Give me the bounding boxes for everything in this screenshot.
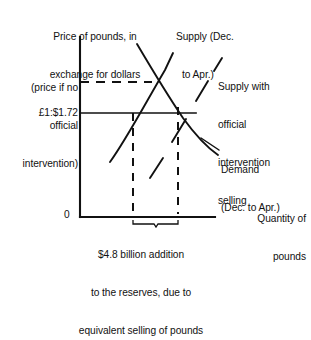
supply-label-line1: Supply (Dec. bbox=[176, 31, 256, 44]
y-axis-title-line1: Price of pounds, in bbox=[22, 31, 168, 44]
no-intervention-line2: official bbox=[2, 120, 78, 133]
no-intervention-line3: intervention) bbox=[2, 158, 78, 171]
caption-line1: $4.8 billion addition bbox=[28, 249, 254, 262]
caption-line3: equivalent selling of pounds bbox=[28, 325, 254, 338]
supply-intervention-line2: official bbox=[218, 119, 310, 132]
origin-label: 0 bbox=[64, 209, 76, 222]
no-intervention-price-label: (price if no official intervention) bbox=[2, 57, 78, 196]
pegged-price-tick-label: £1:$1.72 bbox=[2, 107, 78, 120]
caption-line2: to the reserves, due to bbox=[28, 287, 254, 300]
no-intervention-line1: (price if no bbox=[2, 82, 78, 95]
reserve-gap-caption: $4.8 billion addition to the reserves, d… bbox=[28, 224, 254, 340]
demand-label-line1: Demand bbox=[221, 164, 309, 177]
supply-intervention-line1: Supply with bbox=[218, 81, 310, 94]
